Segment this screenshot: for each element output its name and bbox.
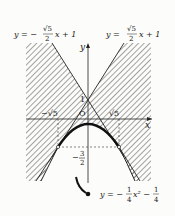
svg-text:y =: y = (105, 30, 120, 39)
y-intercept-label: 1 (80, 95, 85, 104)
right-line-equation: y = √5 2 x + 1 (105, 25, 160, 43)
tangent-point-left (56, 145, 59, 148)
origin-label: O (79, 109, 86, 118)
svg-text:x + 1: x + 1 (55, 30, 76, 39)
svg-text:√5: √5 (127, 25, 136, 33)
tangent-point-right (117, 145, 120, 148)
svg-text:2: 2 (129, 35, 133, 43)
left-line-equation: y = − √5 2 x + 1 (13, 25, 76, 43)
neg-sqrt5-label: −√5 (41, 109, 58, 118)
svg-text:x² −: x² − (133, 190, 150, 199)
neg-three-halves-num: 3 (80, 150, 84, 158)
svg-text:y = −: y = − (13, 30, 37, 39)
svg-text:x + 1: x + 1 (139, 30, 160, 39)
y-axis-label: y (79, 42, 86, 52)
parabola-equation: y = − 1 4 x² − 1 4 (99, 186, 159, 204)
svg-text:y = −: y = − (99, 190, 123, 199)
svg-text:4: 4 (154, 196, 159, 204)
svg-text:1: 1 (154, 186, 158, 194)
graph-canvas: y x O 1 −√5 √5 − 3 2 y = − √5 2 x + 1 y … (0, 0, 175, 216)
svg-text:√5: √5 (43, 25, 52, 33)
pos-sqrt5-label: √5 (109, 109, 119, 118)
neg-three-halves-den: 2 (80, 159, 84, 167)
neg-three-halves-sign: − (72, 153, 79, 162)
x-axis-label: x (145, 120, 150, 130)
svg-text:1: 1 (127, 186, 131, 194)
svg-text:2: 2 (45, 35, 49, 43)
svg-text:4: 4 (127, 196, 132, 204)
